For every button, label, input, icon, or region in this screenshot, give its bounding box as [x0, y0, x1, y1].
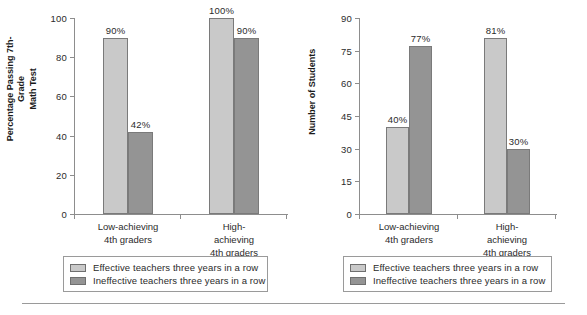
y-axis-tick-label: 15 [341, 176, 352, 187]
legend-item-ineffective-right: Ineffective teachers three years in a ro… [350, 274, 544, 287]
y-axis-tick-label: 30 [341, 143, 352, 154]
legend-swatch-effective-icon [350, 264, 366, 272]
bar-value-label: 81% [486, 25, 506, 36]
bar-value-label: 30% [509, 136, 529, 147]
x-axis-group-separator [180, 214, 181, 219]
y-axis-tick-label: 100 [51, 13, 67, 24]
y-axis-tick-label: 40 [56, 130, 67, 141]
y-axis-tick-label: 60 [341, 78, 352, 89]
y-axis-tick-label: 80 [56, 52, 67, 63]
legend-item-effective-right: Effective teachers three years in a row [350, 261, 544, 274]
legend-label-ineffective: Ineffective teachers three years in a ro… [373, 275, 545, 286]
y-axis-tick [355, 149, 360, 150]
plot-area-left: 02040608010090%42%Low-achieving 4th grad… [75, 18, 287, 214]
bar-ineffective [128, 132, 153, 214]
x-axis-category-label: Low-achieving 4th graders [98, 221, 159, 247]
y-axis-tick [355, 181, 360, 182]
y-axis-tick [355, 83, 360, 84]
x-axis-category-label: Low-achieving 4th graders [379, 221, 440, 247]
bar-effective [209, 18, 234, 214]
y-axis-tick-label: 0 [347, 209, 352, 220]
legend-swatch-ineffective-icon [70, 277, 86, 285]
x-axis-category-label: High-achieving 4th graders [483, 221, 532, 259]
y-axis-tick [355, 116, 360, 117]
legend-label-effective: Effective teachers three years in a row [93, 262, 258, 273]
legend-label-ineffective: Ineffective teachers three years in a ro… [93, 275, 265, 286]
chart-panel-percentage-passing: Percentage Passing 7th-Grade Math Test 0… [0, 0, 300, 300]
y-axis-line-left [74, 18, 75, 214]
y-axis-tick-label: 90 [341, 13, 352, 24]
x-axis-line-left [74, 214, 288, 215]
x-axis-line-right [359, 214, 557, 215]
legend-swatch-effective-icon [70, 264, 86, 272]
y-axis-tick-label: 45 [341, 111, 352, 122]
y-axis-tick [355, 18, 360, 19]
legend-right: Effective teachers three years in a row … [343, 256, 552, 292]
legend-label-effective: Effective teachers three years in a row [373, 262, 538, 273]
bar-ineffective [409, 46, 432, 214]
legend-item-effective-left: Effective teachers three years in a row [70, 261, 260, 274]
bar-value-label: 100% [209, 5, 234, 16]
y-axis-title-right: Number of Students [307, 37, 318, 147]
y-axis-title-left: Percentage Passing 7th-Grade Math Test [5, 24, 39, 154]
bar-ineffective [234, 38, 259, 214]
bar-value-label: 40% [388, 114, 408, 125]
plot-area-right: 015304560759040%77%Low-achieving 4th gra… [360, 18, 556, 214]
chart-panel-number-of-students: Number of Students 015304560759040%77%Lo… [296, 0, 587, 300]
x-axis-end-tick [74, 214, 75, 219]
bar-ineffective [507, 149, 530, 214]
bar-value-label: 42% [131, 119, 151, 130]
y-axis-tick [355, 51, 360, 52]
bar-value-label: 90% [237, 25, 257, 36]
y-axis-tick-label: 0 [62, 209, 67, 220]
y-axis-tick-label: 60 [56, 91, 67, 102]
y-axis-tick [70, 57, 75, 58]
x-axis-end-tick [359, 214, 360, 219]
bar-effective [484, 38, 507, 214]
footer-divider [22, 303, 565, 304]
y-axis-tick-label: 20 [56, 169, 67, 180]
x-axis-group-separator [457, 214, 458, 219]
bar-effective [386, 127, 409, 214]
y-axis-tick [70, 175, 75, 176]
bar-value-label: 90% [106, 25, 126, 36]
y-axis-tick-label: 75 [341, 45, 352, 56]
x-axis-category-label: High-achieving 4th graders [208, 221, 261, 259]
x-axis-end-tick [286, 214, 287, 219]
figure-two-panel-bar-charts: Percentage Passing 7th-Grade Math Test 0… [0, 0, 587, 315]
bar-effective [103, 38, 128, 214]
legend-swatch-ineffective-icon [350, 277, 366, 285]
x-axis-end-tick [555, 214, 556, 219]
legend-item-ineffective-left: Ineffective teachers three years in a ro… [70, 274, 260, 287]
y-axis-tick [70, 18, 75, 19]
legend-left: Effective teachers three years in a row … [63, 256, 268, 292]
y-axis-tick [70, 136, 75, 137]
bar-value-label: 77% [411, 33, 431, 44]
y-axis-tick [70, 96, 75, 97]
